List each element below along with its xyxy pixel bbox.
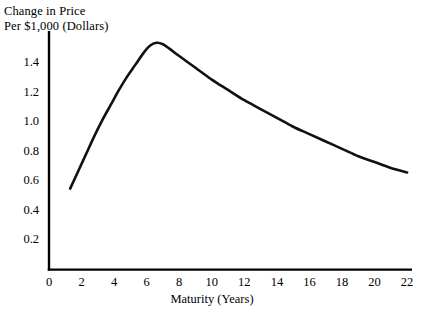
- x-tick-label: 10: [199, 276, 225, 289]
- x-tick-label: 12: [231, 276, 257, 289]
- chart-figure: Change in Price Per $1,000 (Dollars) Mat…: [0, 0, 424, 315]
- y-tick-label: 1.2: [11, 86, 39, 99]
- x-tick-label: 22: [394, 276, 420, 289]
- y-tick-label: 0.6: [11, 174, 39, 187]
- x-tick-label: 18: [329, 276, 355, 289]
- y-tick-label: 1.0: [11, 115, 39, 128]
- y-tick-label: 0.4: [11, 204, 39, 217]
- x-tick-label: 4: [101, 276, 127, 289]
- x-tick-label: 2: [69, 276, 95, 289]
- price-change-curve: [70, 43, 407, 189]
- y-tick-label: 0.2: [11, 233, 39, 246]
- y-tick-label: 1.4: [11, 56, 39, 69]
- data-series-group: [70, 43, 407, 189]
- x-tick-label: 20: [362, 276, 388, 289]
- y-tick-label: 0.8: [11, 145, 39, 158]
- x-axis-title: Maturity (Years): [0, 292, 424, 307]
- x-tick-label: 14: [264, 276, 290, 289]
- x-tick-label: 6: [134, 276, 160, 289]
- x-tick-label: 8: [166, 276, 192, 289]
- plot-area: [0, 0, 424, 315]
- x-tick-label: 0: [36, 276, 62, 289]
- axes-group: [48, 31, 412, 271]
- x-tick-label: 16: [296, 276, 322, 289]
